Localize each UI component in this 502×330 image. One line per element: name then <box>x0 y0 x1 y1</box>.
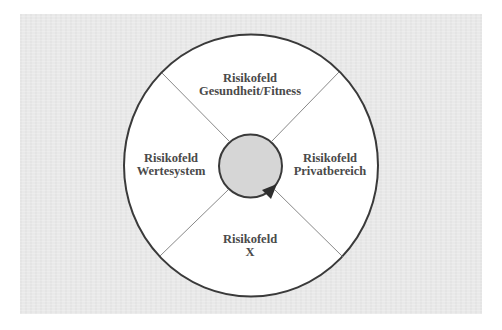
segment-label-right: Risikofeld Privatbereich <box>294 152 367 178</box>
segment-label-left: Risikofeld Wertesystem <box>137 152 206 178</box>
segment-right-line2: Privatbereich <box>294 165 367 178</box>
segment-bottom-line2: X <box>223 246 277 259</box>
segment-left-line2: Wertesystem <box>137 165 206 178</box>
risk-field-diagram <box>0 0 502 330</box>
segment-label-top: Risikofeld Gesundheit/Fitness <box>199 72 301 98</box>
segment-label-bottom: Risikofeld X <box>223 233 277 259</box>
segment-top-line2: Gesundheit/Fitness <box>199 85 301 98</box>
